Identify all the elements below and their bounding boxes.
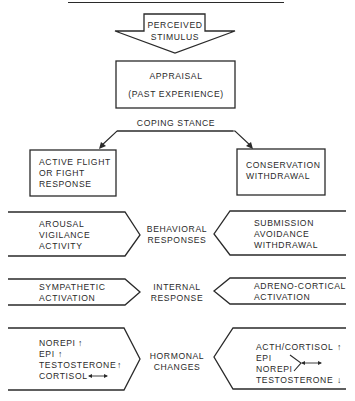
right-hormone: TESTOSTERONE (256, 375, 333, 385)
center-label-line2: RESPONSES (148, 235, 207, 245)
center-label-line1: BEHAVIORAL (147, 224, 207, 234)
double-arrow-icon (88, 374, 108, 378)
left-hormone: NOREPI (39, 338, 76, 348)
center-label-line2: CHANGES (154, 362, 201, 372)
left-item: SYMPATHETIC (39, 282, 105, 292)
center-label-line1: INTERNAL (153, 282, 200, 292)
left-item: AROUSAL (39, 219, 84, 229)
coping-stance-branch-arrows (99, 131, 253, 149)
right-item: AVOIDANCE (254, 229, 309, 239)
up-arrow-icon: ↑ (58, 349, 63, 359)
down-arrow-icon: ↓ (337, 375, 342, 385)
right-item: SUBMISSION (254, 218, 314, 228)
active-line2: OR FIGHT (39, 168, 85, 178)
coping-stance-label: COPING STANCE (137, 118, 215, 128)
right-item: ADRENO-CORTICAL (254, 281, 346, 291)
conservation-line2: WITHDRAWAL (246, 171, 310, 181)
conservation-line1: CONSERVATION (246, 160, 321, 170)
conservation-withdrawal-box: CONSERVATION WITHDRAWAL (237, 149, 325, 195)
left-item: ACTIVATION (39, 293, 95, 303)
left-item: ACTIVITY (39, 241, 82, 251)
appraisal-line2: (PAST EXPERIENCE) (128, 89, 223, 99)
active-line1: ACTIVE FLIGHT (39, 157, 111, 167)
double-arrow-icon (301, 361, 322, 365)
row-behavioral-responses: AROUSAL VIGILANCE ACTIVITY BEHAVIORAL RE… (8, 211, 346, 256)
left-hormone: CORTISOL (39, 371, 88, 381)
right-hormone: EPI (256, 353, 272, 363)
up-arrow-icon: ↑ (117, 360, 122, 370)
row-internal-response: SYMPATHETIC ACTIVATION INTERNAL RESPONSE… (8, 278, 346, 305)
active-flight-fight-box: ACTIVE FLIGHT OR FIGHT RESPONSE (30, 150, 116, 196)
perceived-stimulus-arrow: PERCEIVED STIMULUS (115, 14, 235, 53)
stimulus-line1: PERCEIVED (147, 20, 202, 30)
left-item: VIGILANCE (39, 230, 90, 240)
center-label-line1: HORMONAL (150, 351, 204, 361)
active-line3: RESPONSE (39, 179, 92, 189)
right-item: WITHDRAWAL (254, 240, 318, 250)
stimulus-line2: STIMULUS (151, 32, 199, 42)
right-hormone: ACTH/CORTISOL (256, 342, 333, 352)
appraisal-box: APPRAISAL (PAST EXPERIENCE) (116, 61, 235, 108)
left-hormone: TESTOSTERONE (39, 360, 116, 370)
row-hormonal-changes: NOREPI EPI TESTOSTERONE CORTISOL ↑ ↑ ↑ H… (8, 328, 346, 390)
up-arrow-icon: ↑ (78, 338, 83, 348)
appraisal-line1: APPRAISAL (149, 71, 202, 81)
up-arrow-icon: ↑ (337, 342, 342, 352)
stress-coping-diagram: PERCEIVED STIMULUS APPRAISAL (PAST EXPER… (0, 0, 355, 401)
right-item: ACTIVATION (254, 292, 310, 302)
right-hormone: NOREPI (256, 364, 293, 374)
left-hormone: EPI (39, 349, 55, 359)
center-label-line2: RESPONSE (151, 293, 204, 303)
